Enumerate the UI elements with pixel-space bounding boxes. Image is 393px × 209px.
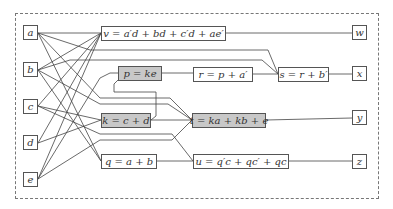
output-w: w [352, 25, 367, 40]
input-a: a [23, 25, 38, 40]
gate-r-expression: r = p + a′ [199, 69, 248, 80]
input-b-label: b [27, 64, 33, 75]
gate-k: k = c + d [101, 113, 151, 128]
gate-t: t = ka + kb + e [192, 113, 266, 128]
gate-t-expression: t = ka + kb + e [190, 115, 269, 126]
gate-p: p = ke [118, 66, 162, 81]
output-y-label: y [357, 112, 363, 123]
gate-q-expression: q = a + b [105, 156, 153, 167]
logic-circuit-diagram: a b c d e v = a′d + bd + c′d + ae′ p = k… [0, 0, 393, 209]
input-e-label: e [28, 174, 34, 185]
output-y: y [352, 110, 367, 125]
gate-u-expression: u = q′c + qc′ + qc [195, 156, 286, 167]
gate-u: u = q′c + qc′ + qc [193, 154, 289, 169]
output-x-label: x [357, 68, 363, 79]
output-z: z [352, 154, 367, 169]
output-w-label: w [355, 27, 364, 38]
output-z-label: z [357, 156, 362, 167]
input-a-label: a [28, 27, 34, 38]
gate-q: q = a + b [101, 154, 157, 169]
gate-v-expression: v = a′d + bd + c′d + ae′ [103, 28, 223, 39]
gate-v: v = a′d + bd + c′d + ae′ [101, 26, 226, 41]
gate-s-expression: s = r + b′ [279, 69, 327, 80]
input-e: e [23, 172, 38, 187]
gate-r: r = p + a′ [193, 67, 253, 82]
input-d-label: d [27, 137, 33, 148]
input-d: d [23, 135, 38, 150]
gate-s: s = r + b′ [278, 67, 329, 82]
gate-k-expression: k = c + d [102, 115, 150, 126]
input-c-label: c [28, 101, 34, 112]
input-b: b [23, 62, 38, 77]
input-c: c [23, 99, 38, 114]
gate-p-expression: p = ke [123, 68, 156, 79]
output-x: x [352, 66, 367, 81]
